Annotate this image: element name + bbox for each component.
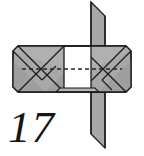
top-vertical-flap xyxy=(91,2,105,46)
envelope-body xyxy=(13,46,131,92)
bottom-vertical-flap xyxy=(91,92,105,148)
top-flap-shape xyxy=(91,2,105,46)
step-number-label: 17 xyxy=(8,103,70,151)
bottom-flap-shape xyxy=(91,92,105,148)
origami-diagram-figure: 17 xyxy=(0,0,144,156)
